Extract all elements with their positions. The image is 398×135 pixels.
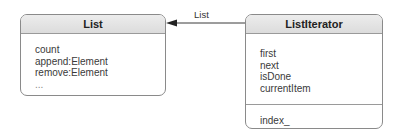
operations-section: first next isDone currentItem	[246, 34, 382, 104]
operations-section: count append:Element remove:Element ...	[21, 34, 165, 90]
arrowhead-icon	[166, 20, 177, 27]
operation: append:Element	[35, 56, 165, 68]
class-list[interactable]: List count append:Element remove:Element…	[20, 14, 166, 96]
operation: first	[260, 48, 382, 60]
operation: remove:Element	[35, 67, 165, 79]
class-name: ListIterator	[246, 15, 382, 34]
operation: count	[35, 44, 165, 56]
operation: next	[260, 60, 382, 72]
class-name: List	[21, 15, 165, 34]
operation-ellipsis: ...	[35, 79, 165, 91]
attributes-section: index_	[246, 105, 382, 127]
operation: isDone	[260, 71, 382, 83]
association-label: List	[194, 9, 209, 20]
class-listiterator[interactable]: ListIterator first next isDone currentIt…	[245, 14, 383, 129]
attribute: index_	[260, 115, 382, 127]
operation: currentItem	[260, 83, 382, 95]
